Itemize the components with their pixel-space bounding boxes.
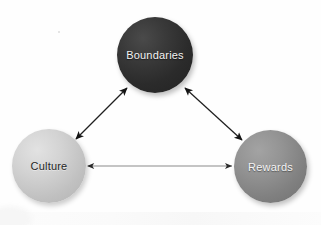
- node-culture-label: Culture: [31, 160, 68, 172]
- diagram-canvas: Boundaries Culture Rewards: [0, 0, 321, 225]
- node-boundaries-label: Boundaries: [126, 49, 184, 61]
- edge-boundaries-rewards: [185, 88, 242, 140]
- node-boundaries[interactable]: Boundaries: [117, 17, 193, 93]
- node-rewards-label: Rewards: [248, 161, 293, 173]
- node-culture[interactable]: Culture: [12, 129, 86, 203]
- node-rewards[interactable]: Rewards: [234, 130, 307, 203]
- edge-culture-boundaries: [76, 88, 127, 139]
